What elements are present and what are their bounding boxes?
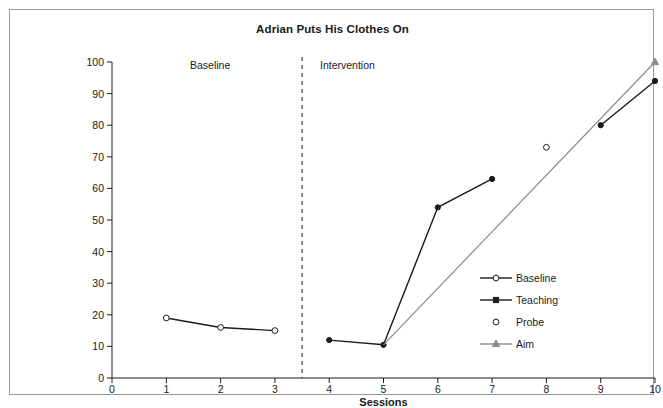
series-line-teaching	[329, 179, 492, 345]
figure-frame: Adrian Puts His Clothes On Average Perce…	[9, 9, 654, 395]
series-line-aim	[384, 62, 656, 345]
data-point-teaching	[435, 205, 440, 210]
data-point-baseline	[272, 328, 278, 334]
data-point-teaching	[327, 337, 332, 342]
legend-marker-baseline	[493, 275, 499, 281]
data-point-teaching	[598, 123, 603, 128]
data-point-aim	[651, 58, 658, 65]
legend-marker-teaching	[493, 297, 498, 302]
series-line-teaching	[601, 81, 655, 125]
legend-marker-probe	[493, 319, 499, 325]
plot-canvas	[10, 10, 655, 396]
data-point-teaching	[652, 78, 657, 83]
data-point-probe	[544, 144, 550, 150]
data-point-baseline	[218, 325, 224, 331]
data-point-baseline	[163, 315, 169, 321]
data-point-teaching	[490, 176, 495, 181]
x-axis-title: Sessions	[112, 396, 655, 408]
